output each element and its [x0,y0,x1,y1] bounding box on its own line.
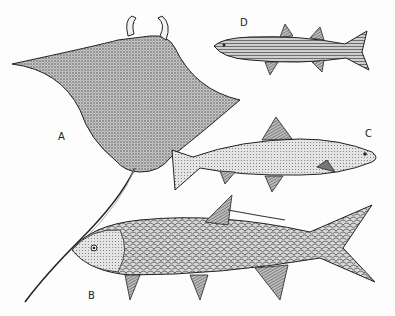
illustration-svg [0,0,395,316]
tarpon-figure-b [72,195,375,300]
label-c: C [365,128,372,139]
label-d: D [240,17,248,28]
mullet-figure-d [214,24,369,75]
label-b: B [88,290,95,301]
fish-illustration: A B C D [0,0,395,316]
label-a: A [58,131,65,142]
